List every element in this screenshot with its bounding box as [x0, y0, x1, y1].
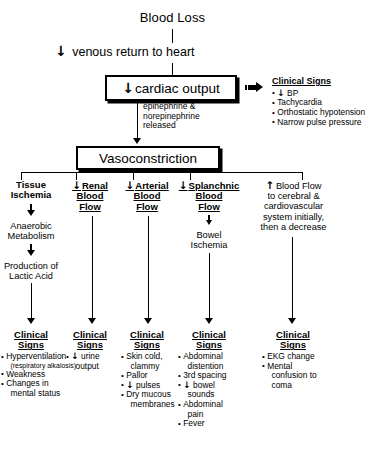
node-anaerobic-metabolism: Anaerobic Metabolism	[0, 221, 62, 241]
top-clinical-signs-heading: Clinical Signs	[272, 77, 345, 87]
down-arrow-icon: ↓	[126, 380, 134, 390]
list-item-label: Narrow pulse pressure	[277, 117, 361, 127]
down-arrow-icon: ↓	[72, 179, 81, 191]
blood-loss-label: Blood Loss	[140, 10, 205, 25]
down-arrow-icon: ↓	[125, 179, 134, 191]
list-item-label: Mental	[267, 361, 292, 371]
connector-cardiac-to-vaso	[137, 101, 138, 140]
node-line: Bowel	[176, 230, 242, 240]
branch-header-splanchnic-blood-flow: ↓Splanchnic Blood Flow	[176, 180, 242, 212]
list-item-label: EKG change	[267, 351, 315, 361]
node-lactic-acid: Production of Lactic Acid	[0, 261, 62, 281]
node-line: Ischemia	[176, 240, 242, 250]
epinephrine-line-3: released	[143, 121, 221, 131]
list-item-cont-label: output	[76, 361, 99, 371]
list-item-label: Dry mucous	[126, 389, 171, 399]
connector-bloodloss-to-venous	[172, 29, 173, 43]
list-item-label: urine	[81, 351, 100, 361]
branch-bus-line	[21, 172, 303, 173]
arrowhead-down-icon	[133, 138, 141, 144]
node-cardiac-output-box: ↓cardiac output	[105, 75, 237, 101]
arrowhead-down-icon	[27, 318, 35, 324]
branch-header-renal-blood-flow: ↓Renal Blood Flow	[62, 180, 118, 212]
node-blood-loss: Blood Loss	[110, 10, 235, 25]
clinical-signs-heading-2: Clinical Signs	[62, 330, 118, 351]
branch-riser-4	[190, 172, 191, 180]
list-item-label: Abdominal	[183, 351, 223, 361]
list-item-cont-label: membranes	[131, 399, 175, 409]
node-line: Metabolism	[0, 231, 62, 241]
list-item-label: pulses	[136, 380, 160, 390]
header-line: Splanchnic	[189, 180, 240, 191]
list-item-label: Skin cold,	[126, 351, 162, 361]
list-item-cont-label: sounds	[188, 389, 215, 399]
header-line: Ischemia	[11, 190, 52, 200]
arrowhead-down-icon	[27, 210, 35, 216]
list-item-label: Hyperventilation	[6, 351, 66, 361]
node-vasoconstriction-box: Vasoconstriction	[76, 146, 220, 170]
node-bowel-ischemia: Bowel Ischemia	[176, 230, 242, 250]
list-item-cont-label: pain	[188, 409, 204, 419]
arrowhead-down-icon	[144, 318, 152, 324]
list-item-cont-label: confusion to	[272, 370, 317, 380]
header-line: Signs	[176, 340, 242, 350]
list-item: Fever	[178, 419, 240, 429]
branch-header-cerebral-blood-flow: ↑Blood Flow to cerebral & cardiovascular…	[242, 180, 345, 232]
header-line: Arterial	[135, 180, 168, 191]
header-line: cardiovascular	[242, 201, 345, 211]
header-line: Renal	[82, 180, 108, 191]
cardiac-output-label: ↓cardiac output	[122, 81, 220, 96]
header-line: to cerebral &	[242, 191, 345, 201]
header-line: Signs	[62, 340, 118, 350]
list-item-label: Pallor	[126, 370, 147, 380]
node-line: Lactic Acid	[0, 271, 62, 281]
clinical-signs-heading-1: Clinical Signs	[0, 330, 62, 351]
list-item-label: Weakness	[6, 369, 45, 379]
clinical-signs-heading-5: Clinical Signs	[260, 330, 326, 351]
node-line: Production of	[0, 261, 62, 271]
clinical-signs-list-4: Abdominal distention 3rd spacing ↓ bowel…	[178, 352, 240, 429]
vasoconstriction-label: Vasoconstriction	[99, 151, 197, 166]
node-venous-return: ↓ venous return to heart	[55, 44, 285, 59]
arrowhead-down-icon	[205, 318, 213, 324]
list-item-cont: coma	[262, 381, 340, 391]
arrowhead-down-icon	[206, 220, 212, 225]
clinical-signs-heading-4: Clinical Signs	[176, 330, 242, 351]
list-item-cont: output	[66, 362, 118, 372]
list-item-label: Fever	[183, 418, 204, 428]
header-line: then a decrease	[242, 222, 345, 232]
list-item-label: Tachycardia	[277, 97, 322, 107]
connector-arterial-to-signs	[148, 216, 149, 320]
list-item-label: Orthostatic hypotension	[277, 107, 365, 117]
list-item: Narrow pulse pressure	[272, 118, 345, 128]
list-item-label: 3rd spacing	[183, 370, 226, 380]
block-arrow-right-icon	[248, 82, 266, 93]
branch-header-tissue-ischemia: Tissue Ischemia	[0, 180, 62, 201]
connector-cerebral-to-signs	[292, 237, 293, 320]
clinical-signs-list-5: EKG change Mental confusion to coma	[262, 352, 340, 390]
down-arrow-icon: ↓	[55, 43, 67, 59]
header-line: Signs	[118, 340, 176, 350]
top-clinical-signs-list: ↓ BP Tachycardia Orthostatic hypotension…	[272, 89, 345, 127]
branch-riser-5	[302, 172, 303, 180]
header-line: Flow	[118, 202, 176, 212]
list-item-cont: membranes	[121, 400, 181, 410]
connector-renal-to-signs	[92, 216, 93, 320]
list-item-cont-label: mental status	[11, 388, 61, 398]
list-item-label: BP	[287, 88, 298, 98]
header-line: system initially,	[242, 212, 345, 222]
header-line: Flow	[62, 202, 118, 212]
clinical-signs-list-2: ↓ urine output	[66, 352, 118, 371]
clinical-signs-list-3: Skin cold, clammy Pallor ↓ pulses Dry mu…	[121, 352, 181, 410]
venous-return-label: venous return to heart	[72, 45, 194, 59]
header-line: Signs	[260, 340, 326, 350]
list-item-cont-label: clammy	[131, 361, 160, 371]
arrowhead-down-icon	[27, 250, 35, 256]
list-item-cont-label: distention	[188, 361, 224, 371]
list-item-cont-label: coma	[272, 380, 292, 390]
up-arrow-icon: ↑	[266, 179, 275, 191]
list-item-cont: mental status	[1, 389, 81, 399]
clinical-signs-heading-3: Clinical Signs	[118, 330, 176, 351]
arrowhead-down-icon	[288, 318, 296, 324]
connector-venous-to-cardiac	[172, 63, 173, 75]
